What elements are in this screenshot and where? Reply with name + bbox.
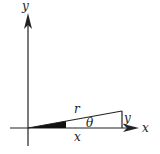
- y-axis: [24, 13, 32, 146]
- x-axis-label: x: [142, 121, 149, 135]
- polar-coordinate-diagram: y x r θ x y: [0, 0, 160, 154]
- adjacent-side-label: x: [74, 130, 81, 144]
- y-axis-label: y: [21, 0, 29, 13]
- hypotenuse-label: r: [74, 102, 81, 116]
- angle-label: θ: [86, 116, 94, 130]
- opposite-side-label: y: [123, 111, 131, 125]
